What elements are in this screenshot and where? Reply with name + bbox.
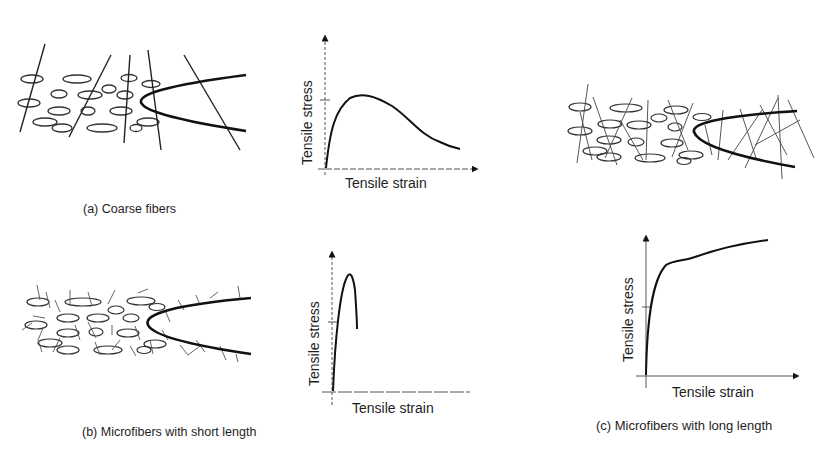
- panel-c-sketch: [568, 84, 814, 179]
- short-microfibers: [22, 285, 240, 362]
- aggregate-ellipses: [18, 75, 160, 133]
- panel-c-chart: [636, 238, 796, 388]
- panel-b-chart: [322, 254, 470, 405]
- stress-strain-curve: [646, 240, 768, 375]
- panel-a-sketch: [18, 44, 246, 150]
- panel-b-x-axis-label: Tensile strain: [352, 400, 434, 416]
- panel-b-sketch: [22, 285, 251, 362]
- panel-c-x-axis-label: Tensile strain: [672, 384, 754, 400]
- panel-a-chart: [318, 38, 475, 175]
- panel-b-caption: (b) Microfibers with short length: [82, 425, 256, 439]
- aggregate-ellipses: [25, 297, 166, 354]
- stress-strain-curve: [326, 95, 460, 168]
- panel-c-y-axis-label: Tensile stress: [620, 277, 636, 362]
- panel-a-x-axis-label: Tensile strain: [345, 175, 427, 191]
- crack-tip: [147, 298, 251, 354]
- crack-tip: [141, 75, 246, 131]
- panel-a-caption: (a) Coarse fibers: [83, 202, 176, 216]
- stress-strain-curve: [333, 274, 357, 391]
- panel-a-y-axis-label: Tensile stress: [299, 80, 315, 165]
- panel-c-caption: (c) Microfibers with long length: [596, 418, 772, 433]
- panel-b-y-axis-label: Tensile stress: [306, 301, 322, 386]
